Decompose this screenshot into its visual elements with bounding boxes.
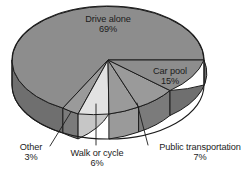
pie-label-car-pool: Car pool 15% — [139, 66, 201, 87]
pie-label-other-value: 3% — [12, 152, 50, 162]
pie-label-other: Other 3% — [12, 142, 50, 163]
pie-label-walk-or-cycle-value: 6% — [62, 158, 132, 168]
pie-label-car-pool-value: 15% — [139, 76, 201, 86]
pie-label-public-transportation: Public transportation 7% — [150, 142, 250, 163]
pie-chart-figure: Drive alone 69% Car pool 15% Other 3% Wa… — [0, 0, 251, 182]
pie-label-drive-alone-value: 69% — [62, 24, 154, 34]
pie-label-walk-or-cycle: Walk or cycle 6% — [62, 148, 132, 169]
pie-label-car-pool-name: Car pool — [139, 66, 201, 76]
pie-label-other-name: Other — [12, 142, 50, 152]
pie-label-public-transportation-name: Public transportation — [150, 142, 250, 152]
pie-label-walk-or-cycle-name: Walk or cycle — [62, 148, 132, 158]
pie-label-drive-alone: Drive alone 69% — [62, 14, 154, 35]
pie-label-public-transportation-value: 7% — [150, 152, 250, 162]
pie-label-drive-alone-name: Drive alone — [62, 14, 154, 24]
